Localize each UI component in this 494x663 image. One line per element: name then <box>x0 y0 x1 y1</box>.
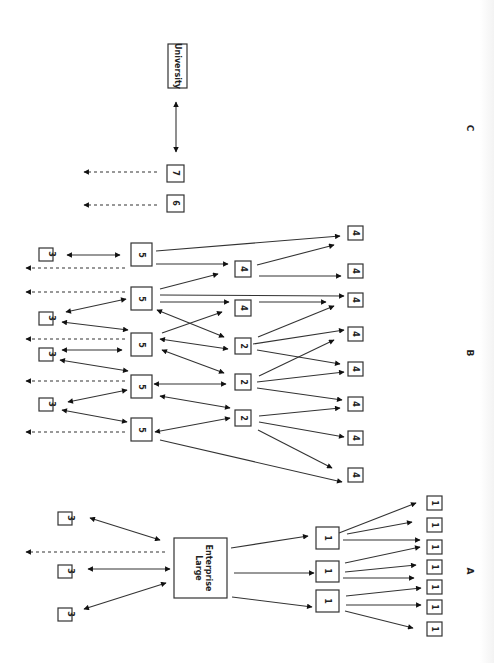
svg-text:Enterprise: Enterprise <box>204 545 213 593</box>
node-5: 5 <box>131 418 152 441</box>
node-5: 5 <box>131 333 152 356</box>
svg-text:University: University <box>173 43 182 90</box>
section-b: 3 3 3 3 5 <box>26 226 475 482</box>
node-1: 1 <box>427 496 442 510</box>
network-diagram: 3 3 3 Large Enterprise 1 <box>0 0 494 663</box>
section-label-b: B <box>465 350 475 357</box>
node-5: 5 <box>131 243 152 266</box>
section-label-a: A <box>465 568 475 575</box>
svg-text:3: 3 <box>47 315 56 321</box>
svg-text:4: 4 <box>239 305 248 311</box>
svg-text:3: 3 <box>47 251 56 257</box>
node-3: 3 <box>39 248 56 261</box>
svg-text:1: 1 <box>430 544 439 550</box>
svg-text:1: 1 <box>323 535 332 541</box>
node-7: 7 <box>167 165 184 182</box>
section-c: 7 6 University C <box>84 43 475 212</box>
node-3: 3 <box>39 312 56 325</box>
node-6: 6 <box>167 195 184 212</box>
node-1: 1 <box>427 560 442 574</box>
node-3: 3 <box>58 608 75 621</box>
node-3: 3 <box>39 348 56 361</box>
node-1: 1 <box>427 580 442 594</box>
svg-text:3: 3 <box>47 351 56 357</box>
svg-text:5: 5 <box>137 342 146 348</box>
node-large-enterprise: Large Enterprise <box>174 538 227 598</box>
node-4: 4 <box>348 327 363 341</box>
node-2: 2 <box>235 374 251 390</box>
node-4: 4 <box>348 362 363 376</box>
svg-text:1: 1 <box>430 500 439 506</box>
svg-text:1: 1 <box>430 584 439 590</box>
svg-text:1: 1 <box>430 604 439 610</box>
page-edge-shadow <box>480 0 494 663</box>
node-4: 4 <box>348 431 363 445</box>
node-1: 1 <box>316 590 339 612</box>
node-3: 3 <box>58 565 75 578</box>
svg-text:4: 4 <box>351 472 360 478</box>
node-4: 4 <box>348 397 363 411</box>
svg-text:3: 3 <box>66 568 75 574</box>
svg-text:4: 4 <box>351 230 360 236</box>
svg-text:5: 5 <box>137 427 146 433</box>
node-1: 1 <box>427 540 442 554</box>
svg-text:5: 5 <box>137 252 146 258</box>
svg-text:1: 1 <box>430 564 439 570</box>
svg-text:6: 6 <box>171 200 180 206</box>
svg-text:2: 2 <box>239 343 248 349</box>
svg-text:3: 3 <box>47 401 56 407</box>
svg-text:4: 4 <box>351 366 360 372</box>
node-university: University <box>168 43 187 90</box>
node-3: 3 <box>58 512 75 525</box>
svg-text:1: 1 <box>430 522 439 528</box>
node-4: 4 <box>348 226 363 240</box>
node-5: 5 <box>131 287 152 310</box>
svg-text:7: 7 <box>171 170 180 176</box>
node-2: 2 <box>235 338 251 354</box>
svg-text:1: 1 <box>323 598 332 604</box>
node-4: 4 <box>348 264 363 278</box>
node-4: 4 <box>348 293 363 307</box>
svg-text:3: 3 <box>66 515 75 521</box>
svg-text:1: 1 <box>430 626 439 632</box>
svg-text:3: 3 <box>66 611 75 617</box>
node-4: 4 <box>235 300 251 316</box>
svg-text:2: 2 <box>239 415 248 421</box>
svg-text:4: 4 <box>239 266 248 272</box>
svg-text:4: 4 <box>351 268 360 274</box>
svg-text:4: 4 <box>351 331 360 337</box>
section-label-c: C <box>465 125 475 132</box>
node-2: 2 <box>235 410 251 426</box>
node-1: 1 <box>427 622 442 636</box>
svg-text:2: 2 <box>239 379 248 385</box>
node-5: 5 <box>131 375 152 398</box>
node-4: 4 <box>235 261 251 277</box>
svg-text:4: 4 <box>351 401 360 407</box>
svg-text:5: 5 <box>137 384 146 390</box>
node-1: 1 <box>427 600 442 614</box>
node-4: 4 <box>348 468 363 482</box>
node-3: 3 <box>39 398 56 411</box>
svg-text:Large: Large <box>194 555 203 581</box>
node-1: 1 <box>316 561 339 582</box>
svg-text:4: 4 <box>351 435 360 441</box>
node-1: 1 <box>427 518 442 532</box>
svg-text:5: 5 <box>137 296 146 302</box>
svg-text:4: 4 <box>351 297 360 303</box>
node-1: 1 <box>316 527 339 549</box>
svg-text:1: 1 <box>323 568 332 574</box>
section-a: 3 3 3 Large Enterprise 1 <box>26 496 475 636</box>
